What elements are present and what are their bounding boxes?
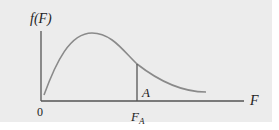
area-label: A [141, 85, 150, 100]
f-distribution-diagram: f(F) F 0 A FA [0, 0, 279, 130]
critical-value-label: FA [130, 109, 145, 126]
density-curve [44, 33, 206, 95]
origin-label: 0 [37, 105, 43, 119]
x-axis-label: F [249, 93, 259, 108]
f-distribution-figure: f(F) F 0 A FA [0, 0, 279, 130]
y-axis-label: f(F) [30, 11, 52, 27]
